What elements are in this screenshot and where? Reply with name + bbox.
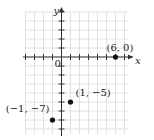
grid	[25, 12, 128, 134]
point-label: (1, −5)	[76, 87, 111, 98]
point-label: (−1, −7)	[6, 103, 50, 114]
coordinate-plane: (6, 0)(1, −5)(−1, −7) x y 0	[0, 0, 154, 140]
x-axis-label: x	[135, 55, 141, 66]
data-points: (6, 0)(1, −5)(−1, −7)	[6, 42, 134, 123]
x-axis-arrow-icon	[128, 55, 133, 60]
data-point	[113, 54, 118, 59]
origin-label: 0	[55, 58, 61, 69]
point-label: (6, 0)	[107, 42, 134, 53]
axes	[23, 7, 133, 136]
y-axis-label: y	[53, 5, 60, 16]
data-point	[68, 99, 73, 104]
y-axis-arrow-icon	[59, 7, 64, 12]
data-point	[50, 117, 55, 122]
